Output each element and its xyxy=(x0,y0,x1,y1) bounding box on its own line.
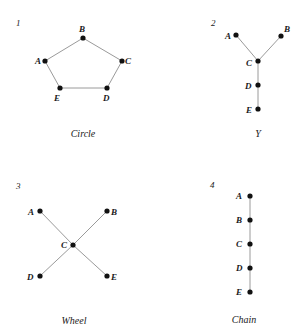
caption-wheel: Wheel xyxy=(62,315,87,326)
node-a xyxy=(233,32,238,37)
communication-networks-diagram: 1 A B C D E Circle 2 A xyxy=(0,0,302,336)
node-label-a: A xyxy=(27,207,34,217)
node-e xyxy=(255,106,260,111)
panel-number: 4 xyxy=(210,180,215,190)
node-label-a: A xyxy=(224,31,231,41)
edge-d-c xyxy=(40,245,73,276)
edge-e-c xyxy=(73,245,107,276)
node-e xyxy=(57,85,62,90)
node-a xyxy=(37,208,42,213)
panel-number: 3 xyxy=(15,181,21,191)
panel-wheel: 3 A B C D E Wheel xyxy=(15,181,117,326)
node-label-c: C xyxy=(236,239,243,249)
node-label-b: B xyxy=(110,207,117,217)
node-label-c: C xyxy=(61,240,68,250)
node-b xyxy=(278,33,283,38)
node-label-a: A xyxy=(34,56,41,66)
node-a xyxy=(42,58,47,63)
node-e xyxy=(104,273,109,278)
node-label-e: E xyxy=(110,272,117,282)
edge-c-d xyxy=(107,61,122,88)
node-label-b: B xyxy=(78,24,85,34)
panel-chain: 4 A B C D E Chain xyxy=(210,180,256,325)
node-label-a: A xyxy=(235,191,242,201)
edge-a-b xyxy=(45,38,83,61)
node-d xyxy=(247,265,252,270)
panel-number: 1 xyxy=(16,18,21,28)
caption-chain: Chain xyxy=(232,314,256,325)
node-label-e: E xyxy=(53,93,60,103)
node-a xyxy=(247,193,252,198)
edge-b-c xyxy=(83,38,122,61)
node-label-d: D xyxy=(244,81,252,91)
edges xyxy=(45,38,122,88)
edge-a-c xyxy=(40,211,73,245)
caption-y: Y xyxy=(255,128,262,139)
node-label-c: C xyxy=(125,56,132,66)
node-c xyxy=(119,58,124,63)
node-label-e: E xyxy=(235,287,242,297)
node-label-d: D xyxy=(235,263,243,273)
caption-circle: Circle xyxy=(71,128,96,139)
panel-number: 2 xyxy=(211,18,216,28)
edges xyxy=(236,35,281,109)
node-c xyxy=(255,58,260,63)
node-b xyxy=(104,208,109,213)
node-b xyxy=(80,35,85,40)
node-label-d: D xyxy=(102,93,110,103)
edge-e-a xyxy=(45,61,60,88)
node-label-b: B xyxy=(235,215,242,225)
node-label-c: C xyxy=(246,58,253,68)
node-b xyxy=(247,217,252,222)
edge-b-c xyxy=(258,36,281,61)
node-label-b: B xyxy=(283,24,290,34)
node-label-e: E xyxy=(245,105,252,115)
node-d xyxy=(255,82,260,87)
node-d xyxy=(37,273,42,278)
panel-y: 2 A B C D E Y xyxy=(211,18,290,139)
node-d xyxy=(104,85,109,90)
node-c xyxy=(70,242,75,247)
edge-b-c xyxy=(73,211,107,245)
node-c xyxy=(247,241,252,246)
panel-circle: 1 A B C D E Circle xyxy=(16,18,132,139)
node-e xyxy=(247,289,252,294)
node-label-d: D xyxy=(26,272,34,282)
